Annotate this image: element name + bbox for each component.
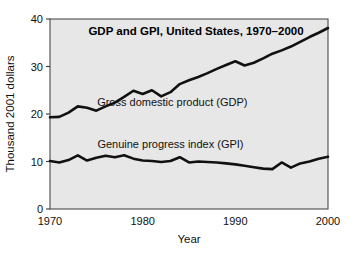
y-tick-label: 30: [31, 61, 43, 73]
y-axis-title: Thousand 2001 dollars: [4, 55, 16, 172]
x-tick-label: 2000: [316, 215, 340, 227]
gpi-series-label: Genuine progress index (GPI): [97, 138, 243, 150]
chart-figure: 010203040 1970198019902000 Thousand 2001…: [0, 0, 356, 254]
x-tick-label: 1990: [223, 215, 247, 227]
x-tick-label: 1970: [38, 215, 62, 227]
gdp-series-label: Gross domestic product (GDP): [97, 96, 247, 108]
y-tick-label: 40: [31, 13, 43, 25]
y-tick-label: 20: [31, 108, 43, 120]
y-tick-label: 0: [37, 203, 43, 215]
x-tick-label: 1980: [130, 215, 154, 227]
gdp-gpi-line-chart: 010203040 1970198019902000 Thousand 2001…: [0, 0, 356, 254]
chart-title: GDP and GPI, United States, 1970–2000: [88, 25, 303, 37]
x-axis-title: Year: [177, 233, 200, 245]
y-tick-label: 10: [31, 156, 43, 168]
